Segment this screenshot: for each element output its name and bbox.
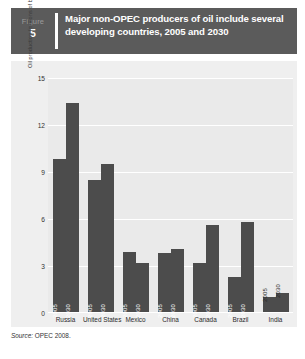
bar-group: 20052030 (83, 78, 118, 313)
source-note: Source: OPEC 2008. (11, 331, 71, 340)
category-label: Canada (188, 316, 223, 324)
bar-group: 20052030 (188, 78, 223, 313)
category-label: United States (83, 316, 118, 324)
bar-group: 20052030 (153, 78, 188, 313)
bar-group: 20052030 (118, 78, 153, 313)
bar-year-label: 2030 (275, 284, 282, 298)
bar-group: 20052030 (48, 78, 83, 313)
y-axis-label: Oil production (millions of barrels of o… (25, 0, 35, 68)
bar: 2005 (263, 297, 276, 313)
bar: 2030 (101, 164, 114, 313)
bar: 2030 (136, 263, 149, 313)
bar-series-container: 2005203020052030200520302005203020052030… (48, 78, 293, 313)
bar-group: 20052030 (258, 78, 293, 313)
figure-header: Figure 5 Major non-OPEC producers of oil… (11, 8, 297, 54)
y-tick-label: 15 (13, 75, 45, 82)
y-axis-ticks: 03691215 (11, 78, 45, 313)
y-tick-label: 12 (13, 122, 45, 129)
bar-group: 20052030 (223, 78, 258, 313)
bar: 2005 (228, 277, 241, 313)
source-text: OPEC 2008. (35, 332, 71, 339)
y-tick-label: 9 (13, 169, 45, 176)
y-tick-label: 6 (13, 216, 45, 223)
category-label: India (258, 316, 293, 324)
y-tick-label: 0 (13, 310, 45, 317)
axis-baseline (48, 312, 293, 313)
y-tick-label: 3 (13, 263, 45, 270)
bar: 2030 (171, 249, 184, 313)
bar: 2005 (193, 263, 206, 313)
bar: 2005 (88, 180, 101, 313)
category-label: Mexico (118, 316, 153, 324)
plot-region: 2005203020052030200520302005203020052030… (48, 78, 293, 313)
category-label: Russia (48, 316, 83, 324)
source-prefix: Source: (11, 332, 33, 339)
category-label: Brazil (223, 316, 258, 324)
figure-container: Figure 5 Major non-OPEC producers of oil… (0, 0, 305, 359)
bar: 2030 (66, 103, 79, 313)
bar: 2030 (206, 225, 219, 313)
bar: 2030 (241, 222, 254, 313)
bar: 2030 (276, 293, 289, 313)
category-label: China (153, 316, 188, 324)
bar-year-label: 2005 (262, 288, 269, 302)
bar: 2005 (158, 253, 171, 313)
bar: 2005 (53, 159, 66, 313)
figure-title: Major non-OPEC producers of oil include … (58, 8, 297, 54)
chart-area: Oil production (millions of barrels of o… (11, 61, 297, 327)
bar: 2005 (123, 252, 136, 313)
